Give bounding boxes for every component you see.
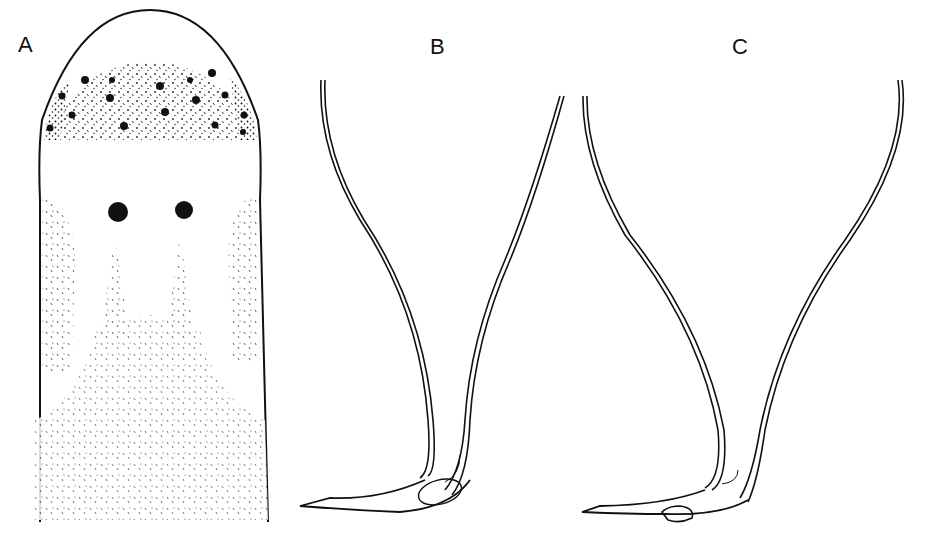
- panel-c-drawing: [582, 80, 903, 522]
- panel-b-drawing: [300, 80, 564, 512]
- figure-canvas: [0, 0, 927, 555]
- eyespots: [108, 201, 193, 222]
- panel-a-drawing: [35, 10, 268, 522]
